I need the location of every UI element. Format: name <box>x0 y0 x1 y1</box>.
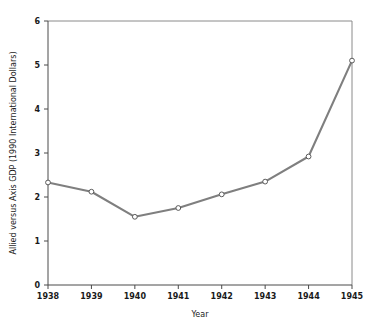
y-tick-label: 2 <box>34 193 40 202</box>
x-tick-label: 1945 <box>341 292 364 301</box>
x-tick-label: 1943 <box>254 292 276 301</box>
y-tick-label: 3 <box>34 149 40 158</box>
y-tick-label: 5 <box>34 61 40 70</box>
x-tick-label: 1941 <box>167 292 190 301</box>
x-tick-label: 1944 <box>297 292 320 301</box>
data-point-marker <box>46 180 51 185</box>
y-tick-label: 0 <box>34 281 40 290</box>
data-point-marker <box>219 192 224 197</box>
y-tick-label: 6 <box>34 17 40 26</box>
x-tick-label: 1940 <box>124 292 147 301</box>
data-point-marker <box>132 214 137 219</box>
data-point-marker <box>176 206 181 211</box>
line-chart: 0123456 19381939194019411942194319441945… <box>0 0 372 327</box>
y-tick-label: 4 <box>34 105 40 114</box>
data-point-marker <box>89 189 94 194</box>
chart-background <box>0 0 372 327</box>
x-tick-label: 1939 <box>80 292 103 301</box>
x-axis-title: Year <box>191 310 210 319</box>
chart-container: 0123456 19381939194019411942194319441945… <box>0 0 372 327</box>
data-point-marker <box>263 179 268 184</box>
x-tick-label: 1938 <box>37 292 60 301</box>
y-axis-title: Allied versus Axis GDP (1990 Internation… <box>9 51 18 254</box>
x-tick-label: 1942 <box>211 292 233 301</box>
data-point-marker <box>306 154 311 159</box>
y-tick-label: 1 <box>34 237 40 246</box>
data-point-marker <box>350 58 355 63</box>
